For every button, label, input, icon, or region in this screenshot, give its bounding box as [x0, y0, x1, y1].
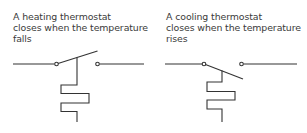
thermostat-diagrams [0, 0, 307, 133]
heating-thermostat-symbol [13, 51, 144, 122]
left-terminal [202, 62, 206, 66]
cooling-thermostat-symbol [165, 62, 297, 122]
bimetal-strip [61, 58, 89, 123]
switch-arm [58, 51, 98, 64]
bimetal-strip [207, 71, 235, 123]
right-terminal [240, 62, 244, 66]
left-terminal [55, 62, 59, 66]
right-terminal [96, 62, 100, 66]
switch-arm [206, 65, 244, 80]
